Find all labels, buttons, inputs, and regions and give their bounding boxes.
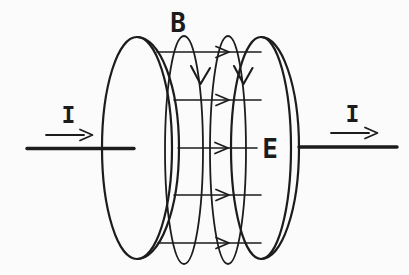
magnetic-field-label: B xyxy=(170,8,186,38)
e-field-line xyxy=(174,95,261,106)
electric-field-label: E xyxy=(262,134,278,164)
capacitor-diagram: I I B E xyxy=(0,0,409,275)
down-arrow-icon xyxy=(191,66,210,84)
current-label-right: I xyxy=(346,101,360,127)
diagram-canvas: I I B E xyxy=(0,0,409,275)
right-current-arrow xyxy=(331,128,378,139)
b-field-loop-right xyxy=(210,36,246,264)
left-current-arrow xyxy=(46,130,93,141)
b-field-loop-left xyxy=(165,36,203,264)
e-field-line xyxy=(174,190,261,201)
current-label-left: I xyxy=(62,102,76,128)
